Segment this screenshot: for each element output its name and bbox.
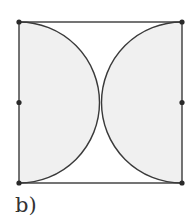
- point-top-right: [179, 19, 184, 24]
- point-bottom-right: [179, 180, 184, 185]
- figure-label: b): [15, 193, 37, 217]
- point-mid-left: [16, 100, 21, 105]
- geometry-figure: [0, 0, 192, 221]
- right-semicircle-shaded: [101, 22, 182, 183]
- point-top-left: [16, 19, 21, 24]
- point-mid-right: [179, 100, 184, 105]
- left-semicircle-shaded: [19, 22, 100, 183]
- point-bottom-left: [16, 180, 21, 185]
